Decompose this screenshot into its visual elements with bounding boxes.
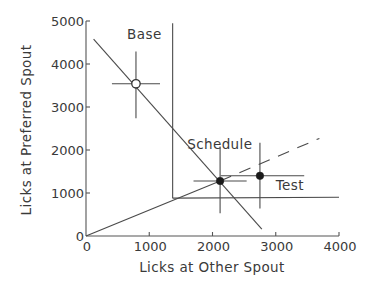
y-tick-label: 0 [76,229,84,244]
y-axis-title: Licks at Preferred Spout [18,45,34,216]
x-tick-label: 2000 [197,239,230,254]
plot-lines [86,23,339,236]
y-tick-label: 1000 [51,186,84,201]
data-point-base [112,52,160,119]
x-tick-label: 0 [83,239,91,254]
x-tick-label: 3000 [260,239,293,254]
x-tick-label: 1000 [134,239,167,254]
annotation-test: Test [275,177,304,193]
data-point-test [221,143,304,209]
x-tick-label: 4000 [323,239,356,254]
annotation-base: Base [127,26,161,42]
x-axis-title: Licks at Other Spout [139,259,285,275]
open-circle-marker [132,80,140,88]
y-tick-label: 4000 [51,57,84,72]
annotation-schedule: Schedule [187,136,252,152]
filled-circle-marker [216,177,224,185]
y-tick-label: 2000 [51,143,84,158]
horizontal-threshold-line [173,197,339,198]
y-tick-label: 5000 [51,14,84,29]
y-tick-label: 3000 [51,100,84,115]
chart-container: 01000200030004000010002000300040005000 B… [0,0,372,291]
axes: 01000200030004000010002000300040005000 [51,14,357,254]
annotations: BaseScheduleTest [127,26,304,193]
scatter-plot: 01000200030004000010002000300040005000 B… [0,0,372,291]
constraint-line [94,39,262,229]
schedule-ratio-line [86,181,220,236]
filled-circle-marker [256,172,264,180]
